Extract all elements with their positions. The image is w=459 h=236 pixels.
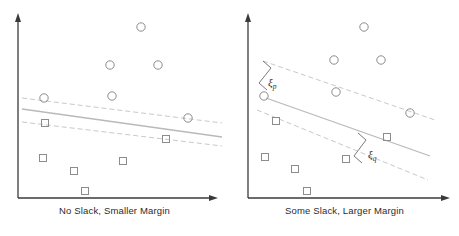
caption-some-slack: Some Slack, Larger Margin	[230, 205, 459, 216]
data-point-circle	[137, 23, 145, 31]
panel-some-slack: ξp ξq Some Slack, Larger Margin	[230, 0, 459, 236]
data-point-circle	[332, 88, 340, 96]
data-point-square	[343, 156, 350, 163]
panel-some-slack-plot	[230, 0, 459, 236]
x-axis-arrowhead-right	[441, 195, 450, 201]
y-axis-arrowhead-left	[15, 13, 21, 22]
data-point-square	[40, 155, 47, 162]
y-axis-arrowhead-right	[245, 13, 251, 22]
data-point-square	[82, 188, 89, 195]
data-point-circle	[360, 23, 368, 31]
slack-label-xi-q: ξq	[368, 148, 376, 163]
data-point-circle	[377, 56, 385, 64]
svm-slack-margin-figure: No Slack, Smaller Margin	[0, 0, 459, 236]
x-axis-arrowhead-left	[209, 195, 218, 201]
data-point-circle	[106, 61, 114, 69]
data-point-circle	[330, 56, 338, 64]
data-point-square	[273, 118, 280, 125]
slack-subscript-p: p	[273, 82, 277, 91]
data-point-square	[120, 158, 127, 165]
slack-label-xi-p: ξp	[268, 76, 276, 91]
panel-no-slack-plot	[0, 0, 229, 236]
slack-subscript-q: q	[373, 154, 377, 163]
caption-no-slack: No Slack, Smaller Margin	[0, 205, 229, 216]
axes-group-left	[15, 13, 218, 201]
class-square-points-left	[40, 120, 170, 195]
data-point-square	[292, 166, 299, 173]
data-point-circle	[260, 92, 268, 100]
margin-upper-right	[263, 61, 435, 120]
margin-lower-right	[257, 110, 428, 180]
data-point-circle	[40, 94, 48, 102]
data-point-circle	[108, 92, 116, 100]
class-circle-points-right	[260, 23, 414, 117]
data-point-circle	[406, 109, 414, 117]
panel-no-slack: No Slack, Smaller Margin	[0, 0, 229, 236]
margin-lower-left	[22, 122, 222, 146]
slack-bracket-xi-q	[354, 133, 366, 163]
axes-group-right	[245, 13, 450, 201]
data-point-square	[262, 154, 269, 161]
data-point-square	[304, 188, 311, 195]
decision-boundary-left	[22, 109, 222, 137]
class-circle-points-left	[40, 23, 192, 122]
data-point-square	[71, 168, 78, 175]
data-point-circle	[154, 61, 162, 69]
